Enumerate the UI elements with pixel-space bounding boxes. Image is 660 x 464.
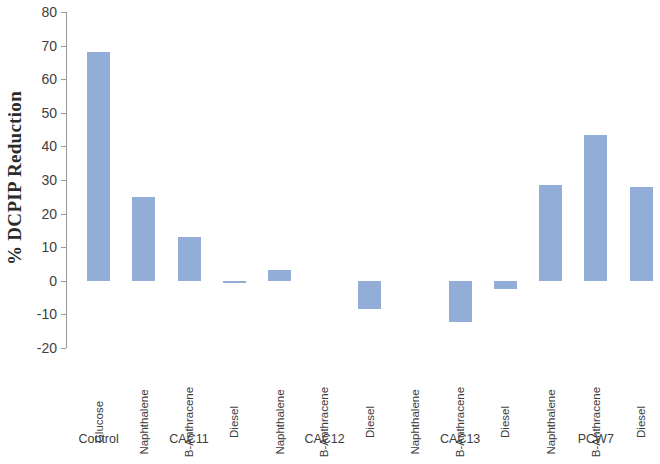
bar	[358, 281, 381, 310]
category-label: Diesel	[226, 350, 242, 428]
y-axis-title: % DCPIP Reduction	[0, 0, 30, 355]
bar	[449, 281, 472, 322]
category-label: Diesel	[497, 350, 513, 428]
group-label: CAC13	[410, 432, 510, 446]
category-label: Naphthalene	[136, 350, 152, 428]
category-axis-labels: GlucoseNaphthaleneB-AnthraceneDieselNaph…	[66, 350, 660, 428]
category-label: B-Anthracene	[181, 350, 197, 428]
category-label: B-Anthracene	[452, 350, 468, 428]
group-label: PCW7	[546, 432, 646, 446]
group-label: Control	[49, 432, 149, 446]
category-label: Diesel	[633, 350, 649, 428]
bar-chart: % DCPIP Reduction 80706050403020100-10-2…	[0, 0, 660, 464]
category-label: Glucose	[91, 350, 107, 428]
category-label: Naphthalene	[271, 350, 287, 428]
bar	[494, 281, 517, 289]
category-label: B-Anthracene	[588, 350, 604, 428]
bar	[87, 52, 110, 280]
y-tick-label: 0	[49, 273, 57, 289]
bar	[178, 237, 201, 281]
bars-layer	[66, 12, 660, 348]
category-label: Naphthalene	[543, 350, 559, 428]
bar	[539, 185, 562, 281]
bar	[268, 270, 291, 281]
y-tick-label: -20	[37, 340, 57, 356]
y-tick-label: 30	[41, 172, 57, 188]
y-tick-label: 60	[41, 71, 57, 87]
group-label: CAC12	[275, 432, 375, 446]
y-tick-mark	[61, 348, 66, 349]
y-tick-label: 20	[41, 206, 57, 222]
bar	[223, 281, 246, 283]
y-tick-label: 10	[41, 239, 57, 255]
category-label: B-Anthracene	[317, 350, 333, 428]
bar	[630, 187, 653, 281]
y-tick-label: -10	[37, 306, 57, 322]
y-tick-label: 80	[41, 4, 57, 20]
bar	[584, 135, 607, 281]
y-tick-label: 40	[41, 138, 57, 154]
y-tick-label: 70	[41, 38, 57, 54]
bar	[132, 197, 155, 281]
plot-area: 80706050403020100-10-20	[66, 12, 660, 348]
category-label: Diesel	[362, 350, 378, 428]
group-axis-labels: ControlCAC11CAC12CAC13PCW7	[66, 432, 660, 458]
group-label: CAC11	[139, 432, 239, 446]
y-axis-title-text: % DCPIP Reduction	[4, 91, 26, 265]
y-tick-label: 50	[41, 105, 57, 121]
category-label: Naphthalene	[407, 350, 423, 428]
